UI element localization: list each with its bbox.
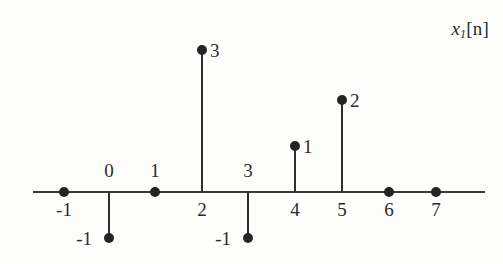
tick-label-n-6: 6 [374, 199, 404, 221]
stem-line-n-5 [341, 100, 343, 192]
horizontal-axis [33, 191, 485, 193]
signal-name-label: x1[n] [451, 18, 489, 42]
value-label-n-5: 2 [350, 90, 380, 112]
sample-dot-n-3 [243, 233, 253, 243]
value-label-n-2: 3 [210, 40, 240, 62]
sample-dot-n-5 [337, 95, 347, 105]
sample-dot-n-4 [290, 141, 300, 151]
sample-dot-n-1 [150, 187, 160, 197]
tick-label-n-0: 0 [94, 160, 124, 182]
sample-dot-n-6 [384, 187, 394, 197]
value-label-n-4: 1 [303, 136, 333, 158]
sample-dot-n-minus1 [59, 187, 69, 197]
stem-line-n-0 [108, 192, 110, 238]
tick-label-n-5: 5 [327, 199, 357, 221]
signal-index-bracket: [n] [466, 18, 489, 39]
stem-line-n-4 [294, 146, 296, 192]
signal-base-symbol: x [451, 18, 460, 39]
tick-label-n-4: 4 [280, 199, 310, 221]
value-label-n-3: -1 [201, 228, 231, 250]
sample-dot-n-7 [431, 187, 441, 197]
tick-label-n-3: 3 [233, 160, 263, 182]
value-label-n-0: -1 [62, 228, 92, 250]
tick-label-n-2: 2 [187, 199, 217, 221]
tick-label-n-minus1: -1 [49, 199, 79, 221]
sample-dot-n-0 [104, 233, 114, 243]
stem-plot-figure: x1[n] -1 0 -1 1 2 3 3 -1 4 1 5 2 6 7 [0, 0, 503, 264]
tick-label-n-1: 1 [140, 160, 170, 182]
sample-dot-n-2 [197, 45, 207, 55]
stem-line-n-2 [201, 50, 203, 192]
stem-line-n-3 [247, 192, 249, 238]
tick-label-n-7: 7 [421, 199, 451, 221]
